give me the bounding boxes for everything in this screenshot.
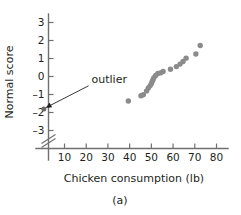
x-axis-label: Chicken consumption (lb) (64, 172, 204, 185)
x-tick-label-20: 20 (80, 151, 93, 163)
axis-ticks (49, 23, 217, 149)
data-point (160, 69, 165, 74)
chart-figure: 10203040506070803210–1–2–3 outlier Chick… (0, 0, 241, 215)
y-tick-label--3: –3 (33, 124, 45, 136)
axes (36, 14, 228, 160)
y-tick-label-2: 2 (38, 34, 45, 46)
y-tick-label-3: 3 (38, 16, 45, 28)
data-point (198, 43, 203, 48)
y-axis-label: Normal score (3, 45, 16, 118)
x-tick-label-70: 70 (188, 151, 201, 163)
annotation-label-outlier: outlier (92, 73, 128, 86)
figure-caption: (a) (112, 194, 127, 207)
outlier-annotation: outlier (46, 73, 128, 108)
axis-tick-labels: 10203040506070803210–1–2–3 (33, 16, 224, 162)
normal-probability-plot: 10203040506070803210–1–2–3 outlier Chick… (0, 0, 241, 215)
data-point (126, 98, 131, 103)
x-tick-label-60: 60 (166, 151, 179, 163)
x-tick-label-10: 10 (58, 151, 71, 163)
data-point (183, 55, 188, 60)
x-tick-label-30: 30 (101, 151, 114, 163)
y-tick-label-0: 0 (38, 70, 45, 82)
annotation-arrow-line (49, 86, 89, 106)
y-tick-label-1: 1 (38, 52, 45, 64)
y-tick-label--1: –1 (33, 88, 45, 100)
data-point (168, 67, 173, 72)
outlier-data-point (41, 106, 46, 111)
x-tick-label-80: 80 (210, 151, 223, 163)
data-point (193, 51, 198, 56)
x-tick-label-50: 50 (145, 151, 158, 163)
x-tick-label-40: 40 (123, 151, 136, 163)
